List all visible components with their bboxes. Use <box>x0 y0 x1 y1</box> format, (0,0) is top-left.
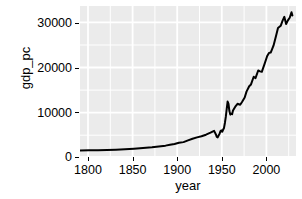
y-tick-label-30000: 30000 <box>26 17 72 30</box>
x-axis-title: year <box>80 178 296 193</box>
gdp-per-capita-chart: gdp_pc 30000 20000 10000 0 <box>0 0 302 199</box>
x-tick-mark-1950 <box>222 157 223 161</box>
x-tick-label-1850: 1850 <box>113 163 153 177</box>
x-tick-label-1900: 1900 <box>157 163 197 177</box>
y-tick-label-20000: 20000 <box>26 62 72 75</box>
x-tick-mark-2000 <box>266 157 267 161</box>
major-gridlines <box>80 6 296 157</box>
plot-panel <box>80 6 296 157</box>
x-tick-label-1950: 1950 <box>202 163 242 177</box>
y-tick-mark-10000 <box>75 112 79 113</box>
y-tick-mark-0 <box>75 157 79 158</box>
x-tick-mark-1850 <box>133 157 134 161</box>
y-tick-mark-20000 <box>75 68 79 69</box>
plot-area <box>80 6 296 157</box>
x-tick-label-2000: 2000 <box>246 163 286 177</box>
gdp-line-series <box>80 12 292 150</box>
x-tick-label-1800: 1800 <box>68 163 108 177</box>
minor-gridlines <box>80 6 296 157</box>
x-tick-mark-1900 <box>177 157 178 161</box>
y-tick-mark-30000 <box>75 23 79 24</box>
y-tick-label-10000: 10000 <box>26 107 72 120</box>
x-tick-mark-1800 <box>88 157 89 161</box>
y-tick-label-0: 0 <box>26 151 72 164</box>
